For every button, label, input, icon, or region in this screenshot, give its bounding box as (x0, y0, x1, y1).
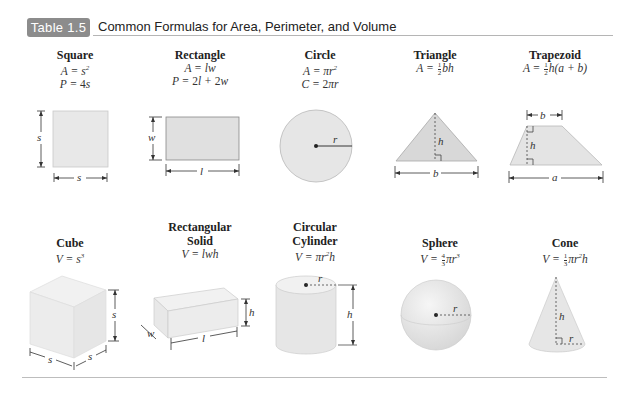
table-bottom-rule (22, 377, 607, 378)
svg-text:r: r (569, 332, 574, 344)
cone-diagram: h r (0, 0, 628, 393)
svg-text:h: h (559, 310, 565, 322)
